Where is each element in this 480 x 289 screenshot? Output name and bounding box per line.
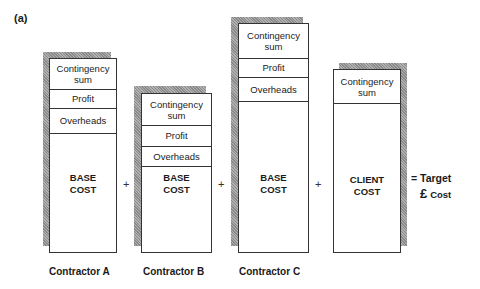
base-cost-label: BASE COST	[50, 172, 116, 196]
contractor-a-box: Contingency sum Profit Overheads BASE CO…	[49, 58, 117, 253]
overheads-segment: Overheads	[142, 146, 211, 167]
target-cost-label: = Target £ Cost	[411, 171, 451, 202]
client-cost-label: CLIENT COST	[334, 174, 400, 198]
plus-operator: +	[218, 178, 224, 190]
base-line1: BASE	[50, 172, 116, 184]
plus-operator: +	[315, 178, 321, 190]
profit-segment: Profit	[239, 58, 308, 78]
overheads-segment: Overheads	[239, 77, 308, 102]
contingency-segment: Contingency sum	[142, 94, 211, 126]
contingency-segment: Contingency sum	[334, 70, 400, 104]
contingency-segment: Contingency sum	[50, 59, 116, 90]
plus-operator: +	[123, 178, 129, 190]
target-line1: = Target	[411, 171, 451, 186]
pound-sign: £	[420, 186, 427, 201]
target-line2: £ Cost	[411, 186, 451, 202]
contractor-c-box: Contingency sum Profit Overheads BASE CO…	[238, 23, 309, 253]
base-line2: COST	[50, 184, 116, 196]
client-line2: COST	[334, 186, 400, 198]
client-line1: CLIENT	[334, 174, 400, 186]
base-cost-label: BASE COST	[239, 172, 308, 196]
panel-label: (a)	[14, 12, 27, 24]
client-box: Contingency sum CLIENT COST	[333, 69, 401, 253]
base-cost-label: BASE COST	[142, 172, 211, 196]
base-line2: COST	[142, 184, 211, 196]
contingency-segment: Contingency sum	[239, 24, 308, 59]
overheads-segment: Overheads	[50, 108, 116, 134]
contractor-b-box: Contingency sum Profit Overheads BASE CO…	[141, 93, 212, 253]
contractor-c-label: Contractor C	[239, 266, 300, 277]
profit-segment: Profit	[50, 89, 116, 109]
contractor-a-label: Contractor A	[49, 266, 110, 277]
cost-word: Cost	[430, 189, 451, 200]
profit-segment: Profit	[142, 125, 211, 147]
base-line1: BASE	[142, 172, 211, 184]
contractor-b-label: Contractor B	[143, 266, 204, 277]
base-line1: BASE	[239, 172, 308, 184]
base-line2: COST	[239, 184, 308, 196]
